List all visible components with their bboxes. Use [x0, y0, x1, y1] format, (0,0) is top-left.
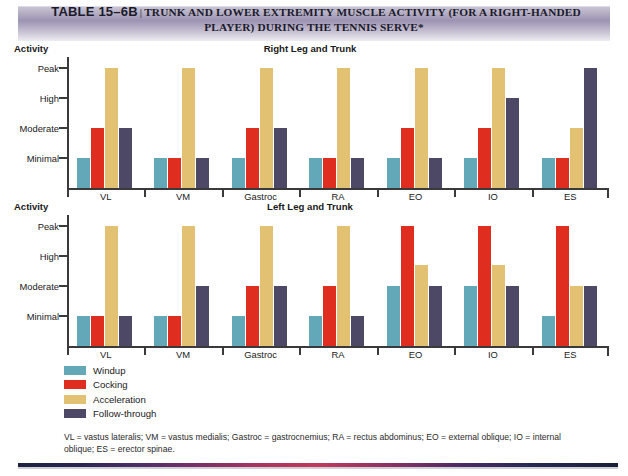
- y-axis-tick-label: High: [40, 92, 59, 103]
- bar: [196, 286, 209, 346]
- table-number: TABLE 15–6B: [51, 4, 137, 19]
- bar: [274, 128, 287, 188]
- x-axis-category-label: IO: [488, 191, 498, 202]
- x-axis-tick: [67, 346, 69, 355]
- plot-area: VLVMGastrocRAEOIOES: [67, 215, 609, 348]
- x-axis-tick: [454, 346, 456, 355]
- bar: [429, 158, 442, 188]
- bar: [91, 316, 104, 346]
- bar-set: [77, 57, 154, 188]
- x-axis-tick: [377, 188, 379, 197]
- x-axis-category-label: IO: [488, 349, 498, 360]
- y-axis-tick: [59, 225, 67, 227]
- bar: [168, 158, 181, 188]
- x-axis-tick: [299, 188, 301, 197]
- y-axis-tick-label: Minimal: [27, 152, 59, 163]
- bar: [246, 128, 259, 188]
- bar: [387, 158, 400, 188]
- bar-group: Gastroc: [222, 215, 299, 346]
- bar: [542, 316, 555, 346]
- legend-color-swatch: [64, 366, 86, 375]
- legend-item-label: Follow-through: [93, 408, 156, 419]
- bar: [196, 158, 209, 188]
- bar-group: EO: [377, 215, 454, 346]
- bar-group: Gastroc: [222, 57, 299, 188]
- bar: [119, 128, 132, 188]
- x-axis-category-label: VL: [100, 349, 111, 360]
- x-axis-tick: [144, 346, 146, 355]
- bar: [309, 316, 322, 346]
- x-axis-tick: [299, 346, 301, 355]
- bar-set: [232, 215, 309, 346]
- bar-set: [232, 57, 309, 188]
- y-axis-tick: [59, 97, 67, 99]
- bar: [584, 286, 597, 346]
- y-axis-tick-label: Minimal: [27, 310, 59, 321]
- bar-set: [77, 215, 154, 346]
- bar: [387, 286, 400, 346]
- chart-legend: WindupCockingAccelerationFollow-through: [64, 363, 156, 421]
- x-axis-category-label: Gastroc: [244, 349, 277, 360]
- bar-group: RA: [299, 215, 376, 346]
- legend-item-label: Cocking: [93, 379, 128, 390]
- table-footnote: VL = vastus lateralis; VM = vastus media…: [64, 432, 564, 455]
- y-axis-tick-label: Moderate: [19, 280, 59, 291]
- bar: [337, 68, 350, 188]
- bar: [506, 98, 519, 188]
- legend-item: Cocking: [64, 378, 156, 393]
- bar: [492, 68, 505, 188]
- bar: [274, 286, 287, 346]
- bar: [351, 158, 364, 188]
- bar: [478, 226, 491, 346]
- bar: [246, 286, 259, 346]
- bar: [323, 158, 336, 188]
- bar-group: RA: [299, 57, 376, 188]
- x-axis-tick: [532, 346, 534, 355]
- bar: [323, 286, 336, 346]
- y-axis-tick-labels: PeakHighModerateMinimal: [0, 215, 59, 348]
- bar-group: EO: [377, 57, 454, 188]
- y-axis-caption: Activity: [14, 43, 48, 54]
- bar: [232, 158, 245, 188]
- table-title: TABLE 15–6B|TRUNK AND LOWER EXTREMITY MU…: [18, 5, 610, 34]
- bar-set: [309, 215, 386, 346]
- x-axis-category-label: ES: [564, 349, 577, 360]
- bar: [260, 68, 273, 188]
- y-axis-tick: [59, 315, 67, 317]
- bar: [556, 226, 569, 346]
- chart-title: Left Leg and Trunk: [180, 201, 440, 212]
- bar: [154, 316, 167, 346]
- legend-color-swatch: [64, 380, 86, 389]
- bar: [401, 226, 414, 346]
- y-axis-tick-label: Peak: [38, 220, 59, 231]
- bar: [119, 316, 132, 346]
- y-axis-tick-label: Peak: [38, 62, 59, 73]
- legend-item-label: Windup: [93, 365, 126, 376]
- bar-set: [387, 215, 464, 346]
- bar-set: [542, 57, 619, 188]
- legend-color-swatch: [64, 395, 86, 404]
- bar: [232, 316, 245, 346]
- x-axis-tick: [222, 188, 224, 197]
- y-axis-tick: [59, 255, 67, 257]
- y-axis-tick-labels: PeakHighModerateMinimal: [0, 57, 59, 190]
- bar-group: VM: [144, 215, 221, 346]
- y-axis-tick: [59, 285, 67, 287]
- legend-item: Windup: [64, 363, 156, 378]
- bar-set: [542, 215, 619, 346]
- bar: [415, 265, 428, 346]
- bar: [478, 128, 491, 188]
- bar: [182, 68, 195, 188]
- x-axis-category-label: VM: [176, 349, 190, 360]
- bar: [77, 316, 90, 346]
- x-axis-category-label: VL: [100, 191, 111, 202]
- x-axis-category-label: RA: [331, 349, 344, 360]
- y-axis-tick: [59, 127, 67, 129]
- bar: [168, 316, 181, 346]
- x-axis-tick: [377, 346, 379, 355]
- bar-set: [309, 57, 386, 188]
- legend-item: Follow-through: [64, 407, 156, 422]
- bar-set: [154, 215, 231, 346]
- bar-group: VM: [144, 57, 221, 188]
- y-axis-tick-label: High: [40, 250, 59, 261]
